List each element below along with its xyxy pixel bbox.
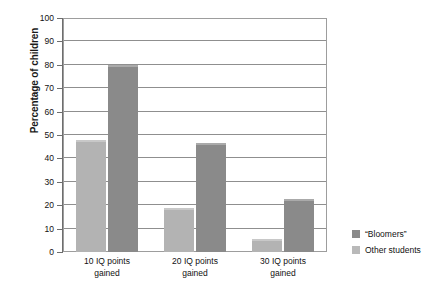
bars-layer	[63, 18, 327, 252]
y-axis-tick-label: 20	[30, 201, 54, 210]
legend-item-label: Other students	[365, 246, 421, 255]
x-axis-category-line: 20 IQ points	[151, 256, 239, 268]
bar-chart: Percentage of children 01020304050607080…	[0, 0, 446, 302]
y-axis-tick-label: 30	[30, 178, 54, 187]
bar-other-students-2	[164, 208, 194, 252]
x-axis-category-line: gained	[151, 268, 239, 280]
y-axis-tick-label: 90	[30, 37, 54, 46]
y-axis-tick-label: 80	[30, 61, 54, 70]
legend-swatch-icon	[352, 246, 360, 254]
x-axis-category-line: gained	[239, 268, 327, 280]
y-axis-tick-label: 10	[30, 225, 54, 234]
legend-item-other-students[interactable]: Other students	[352, 244, 444, 256]
x-axis-category-line: gained	[63, 268, 151, 280]
bar-other-students-1	[76, 140, 106, 252]
y-axis-tick-label: 60	[30, 108, 54, 117]
y-axis-tick-label: 100	[30, 14, 54, 23]
bar-other-students-3	[252, 239, 282, 252]
y-axis-tick-label: 40	[30, 154, 54, 163]
bar-bloomers-1	[108, 65, 138, 252]
x-axis-category-label: 20 IQ pointsgained	[151, 256, 239, 279]
x-axis-category-label: 30 IQ pointsgained	[239, 256, 327, 279]
x-axis-category-line: 30 IQ points	[239, 256, 327, 268]
x-axis-category-label: 10 IQ pointsgained	[63, 256, 151, 279]
y-axis-tick-label: 70	[30, 84, 54, 93]
y-axis-tick-label: 0	[30, 248, 54, 257]
x-axis-category-line: 10 IQ points	[63, 256, 151, 268]
legend-item-bloomers[interactable]: “Bloomers”	[352, 228, 444, 240]
legend-item-label: “Bloomers”	[365, 230, 407, 239]
y-axis-tick-label: 50	[30, 131, 54, 140]
legend-swatch-icon	[352, 230, 360, 238]
bar-bloomers-3	[284, 199, 314, 252]
x-axis-labels: 10 IQ pointsgained20 IQ pointsgained30 I…	[63, 256, 327, 290]
bar-bloomers-2	[196, 143, 226, 252]
chart-legend: “Bloomers”Other students	[352, 228, 444, 260]
